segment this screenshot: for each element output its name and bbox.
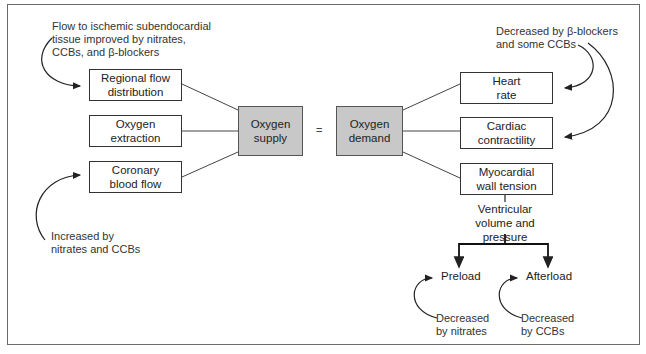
equals-sign: = [316, 124, 322, 136]
oxygen-supply-box: Oxygen supply [238, 106, 303, 156]
wall-tension-box: Myocardial wall tension [460, 163, 553, 195]
cardiac-contractility-box: Cardiac contractility [460, 117, 553, 149]
flow-annotation: Flow to ischemic subendocardial tissue i… [52, 20, 211, 59]
oxygen-extraction-box: Oxygen extraction [89, 115, 182, 147]
coronary-annotation: Increased by nitrates and CCBs [51, 230, 140, 256]
heart-rate-contractility-annotation: Decreased by β-blockers and some CCBs [496, 25, 618, 51]
coronary-blood-flow-box: Coronary blood flow [89, 161, 182, 193]
ventricular-label: Ventricular volume and pressure [462, 202, 548, 244]
regional-flow-box: Regional flow distribution [89, 69, 182, 101]
preload-label: Preload [441, 269, 481, 283]
afterload-label: Afterload [526, 269, 572, 283]
afterload-annotation: Decreased by CCBs [521, 312, 574, 338]
heart-rate-box: Heart rate [460, 72, 553, 104]
oxygen-demand-box: Oxygen demand [336, 106, 403, 156]
preload-annotation: Decreased by nitrates [436, 312, 489, 338]
